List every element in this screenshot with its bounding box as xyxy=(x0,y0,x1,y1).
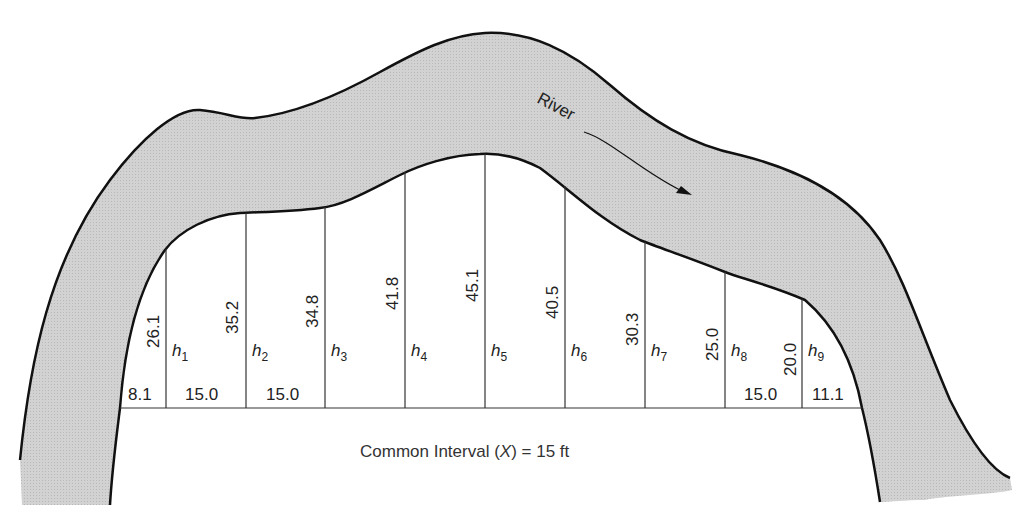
river-offset-diagram: 26.1 35.2 34.8 41.8 45.1 40.5 30.3 25.0 … xyxy=(0,0,1032,525)
offset-value-2: 35.2 xyxy=(223,301,242,334)
interval-second: 15.0 xyxy=(185,385,218,404)
offset-value-9: 20.0 xyxy=(781,343,800,376)
offset-value-6: 40.5 xyxy=(543,286,562,319)
offset-value-3: 34.8 xyxy=(303,295,322,328)
interval-second-last: 15.0 xyxy=(744,385,777,404)
common-interval-caption: Common Interval (X) = 15 ft xyxy=(360,442,570,461)
interval-third: 15.0 xyxy=(266,385,299,404)
h-label-7: h7 xyxy=(651,341,667,364)
offset-values: 26.1 35.2 34.8 41.8 45.1 40.5 30.3 25.0 … xyxy=(144,269,800,376)
h-label-8: h8 xyxy=(731,341,747,364)
h-label-4: h4 xyxy=(411,341,427,364)
h-label-1: h1 xyxy=(172,341,188,364)
river-body xyxy=(20,33,1012,505)
offset-value-5: 45.1 xyxy=(463,269,482,302)
h-label-9: h9 xyxy=(808,341,824,364)
interval-last: 11.1 xyxy=(812,385,844,404)
h-label-5: h5 xyxy=(491,341,507,364)
h-label-3: h3 xyxy=(331,341,347,364)
offset-value-7: 30.3 xyxy=(623,313,642,346)
offset-value-1: 26.1 xyxy=(144,315,163,348)
offset-value-4: 41.8 xyxy=(383,277,402,310)
interval-first: 8.1 xyxy=(128,385,152,404)
offset-labels: h1 h2 h3 h4 h5 h6 h7 h8 h9 xyxy=(172,341,824,364)
interval-values: 8.1 15.0 15.0 15.0 11.1 xyxy=(128,385,844,404)
h-label-6: h6 xyxy=(571,341,587,364)
h-label-2: h2 xyxy=(252,341,268,364)
offset-value-8: 25.0 xyxy=(703,328,722,361)
